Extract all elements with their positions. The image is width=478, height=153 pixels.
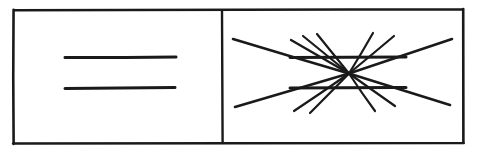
paper-background	[0, 0, 478, 153]
vertical-divider	[222, 11, 223, 142]
lower-test-line	[290, 87, 406, 88]
panel-divider-group	[222, 11, 223, 142]
upper-test-line	[290, 57, 406, 58]
lower-parallel-line	[65, 88, 175, 89]
upper-parallel-line	[65, 57, 176, 58]
figure-canvas	[0, 0, 478, 153]
figure-root	[0, 0, 478, 153]
